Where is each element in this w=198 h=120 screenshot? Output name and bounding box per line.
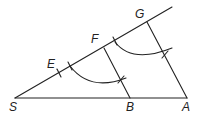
geometry-diagram: S B A E F G [0, 0, 198, 120]
ray-S [15, 7, 172, 98]
construction-figure [0, 0, 198, 120]
label-A: A [182, 101, 190, 113]
label-G: G [135, 8, 144, 20]
label-F: F [91, 33, 98, 45]
label-B: B [126, 101, 134, 113]
line-GA [147, 22, 187, 98]
label-E: E [47, 58, 55, 70]
line-FB [104, 48, 130, 98]
label-S: S [9, 101, 17, 113]
